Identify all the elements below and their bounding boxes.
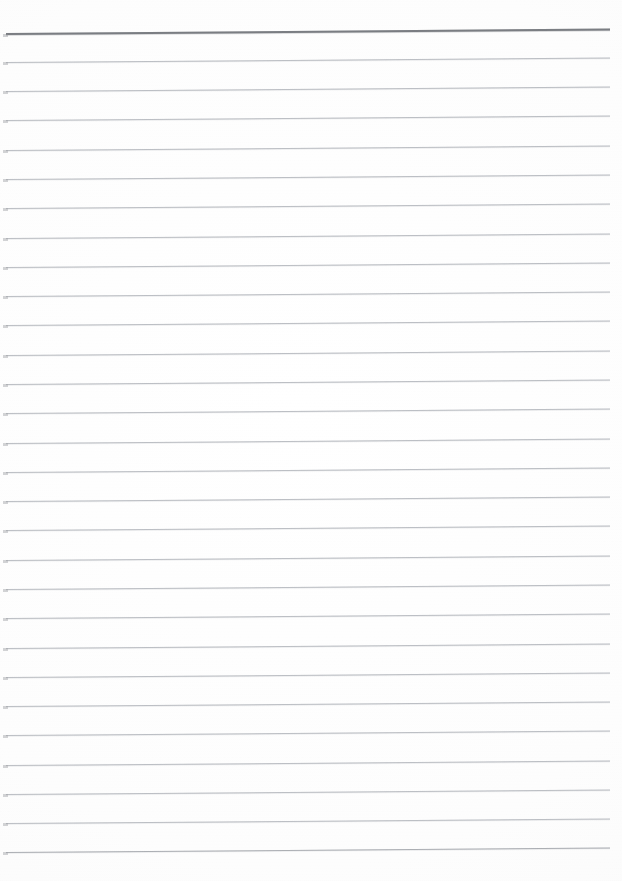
rule-line-edge-artifact <box>3 267 8 270</box>
rule-line-5 <box>6 146 610 151</box>
rule-line-edge-artifact <box>3 501 8 504</box>
rule-line-edge-artifact <box>3 560 8 563</box>
rule-line-edge-artifact <box>3 296 8 299</box>
rule-line-edge-artifact <box>3 472 8 475</box>
rule-line-edge-artifact <box>3 443 8 446</box>
rule-line-3 <box>6 87 610 92</box>
rule-line-edge-artifact <box>3 62 8 65</box>
rule-line-18 <box>6 526 610 531</box>
rule-line-edge-artifact <box>3 852 8 855</box>
rule-line-1 <box>6 29 610 35</box>
rule-line-edge-artifact <box>3 238 8 241</box>
rule-line-edge-artifact <box>3 794 8 797</box>
rule-line-edge-artifact <box>3 34 8 37</box>
rule-line-edge-artifact <box>3 648 8 651</box>
rule-line-edge-artifact <box>3 150 8 153</box>
rule-line-edge-artifact <box>3 677 8 680</box>
rule-line-11 <box>6 321 610 326</box>
rule-line-17 <box>6 497 610 502</box>
rule-line-27 <box>6 790 610 795</box>
rule-line-edge-artifact <box>3 823 8 826</box>
rule-line-edge-artifact <box>3 208 8 211</box>
rule-line-edge-artifact <box>3 735 8 738</box>
rule-line-edge-artifact <box>3 618 8 621</box>
rule-line-edge-artifact <box>3 325 8 328</box>
rule-line-10 <box>6 292 610 297</box>
rule-line-14 <box>6 409 610 414</box>
rule-line-29 <box>6 848 610 853</box>
scanned-page <box>0 0 622 881</box>
rule-line-edge-artifact <box>3 179 8 182</box>
rule-line-12 <box>6 351 610 356</box>
rule-line-edge-artifact <box>3 530 8 533</box>
rule-line-21 <box>6 614 610 619</box>
rule-line-23 <box>6 673 610 678</box>
rule-line-edge-artifact <box>3 706 8 709</box>
rule-line-4 <box>6 116 610 121</box>
rule-line-16 <box>6 468 610 473</box>
rule-line-8 <box>6 234 610 239</box>
rule-line-edge-artifact <box>3 355 8 358</box>
rule-line-edge-artifact <box>3 91 8 94</box>
rule-line-edge-artifact <box>3 589 8 592</box>
rule-line-20 <box>6 585 610 590</box>
rule-line-15 <box>6 439 610 444</box>
rule-line-19 <box>6 556 610 561</box>
rule-line-22 <box>6 644 610 649</box>
rule-line-25 <box>6 731 610 736</box>
rule-line-2 <box>6 58 610 63</box>
rule-line-28 <box>6 819 610 824</box>
rule-line-24 <box>6 702 610 707</box>
ruled-lines-layer <box>0 0 622 881</box>
rule-line-edge-artifact <box>3 413 8 416</box>
rule-line-edge-artifact <box>3 765 8 768</box>
rule-line-edge-artifact <box>3 120 8 123</box>
rule-line-6 <box>6 175 610 180</box>
rule-line-7 <box>6 204 610 209</box>
rule-line-9 <box>6 263 610 268</box>
rule-line-edge-artifact <box>3 384 8 387</box>
rule-line-13 <box>6 380 610 385</box>
rule-line-26 <box>6 761 610 766</box>
